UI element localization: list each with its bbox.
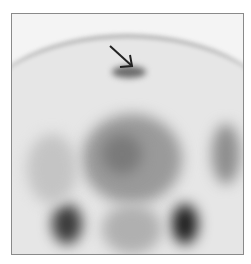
uptake-lower-mid: [102, 204, 162, 254]
uptake-center-dark: [102, 134, 142, 174]
scan-image-frame: [11, 13, 244, 255]
uptake-far-right: [212, 124, 240, 184]
arrow-icon: [108, 44, 138, 74]
uptake-left: [52, 204, 82, 244]
uptake-left-mid: [27, 134, 77, 204]
uptake-right: [172, 204, 198, 244]
